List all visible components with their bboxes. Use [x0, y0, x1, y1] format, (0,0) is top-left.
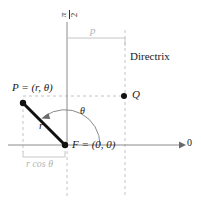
point-Q-dot — [121, 93, 127, 99]
point-F-label: F = (0, 0) — [72, 139, 115, 150]
directrix-label: Directrix — [130, 51, 170, 62]
figure-canvas — [0, 0, 201, 202]
point-P-label: P = (r, θ) — [12, 82, 53, 93]
p-measure-bracket — [67, 32, 125, 46]
rcos-measure-bracket — [23, 151, 65, 157]
point-P-dot — [20, 100, 26, 106]
polar-coordinate-figure: π 2 p Directrix P = (r, θ) Q θ r F = (0,… — [0, 0, 201, 202]
radius-r-label: r — [39, 120, 43, 131]
pi-denominator: 2 — [70, 13, 79, 18]
pi-numerator: π — [59, 13, 68, 18]
pi-over-two-fraction: π 2 — [59, 11, 79, 20]
point-Q-label: Q — [132, 89, 140, 100]
polar-axis-zero-label: 0 — [187, 138, 192, 148]
p-distance-label: p — [90, 25, 96, 36]
point-F-dot — [62, 142, 68, 148]
r-cos-theta-label: r cos θ — [26, 159, 53, 169]
theta-angle-label: θ — [80, 106, 85, 116]
polar-axis-arrowhead — [179, 142, 186, 149]
pi-over-two-axis-label: π 2 — [56, 2, 82, 28]
